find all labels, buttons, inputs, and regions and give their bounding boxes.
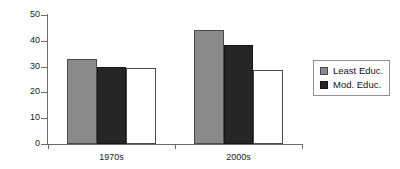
y-axis-tick-label: 10 xyxy=(0,113,40,122)
x-axis-tick xyxy=(302,144,303,149)
bar xyxy=(253,70,283,144)
legend-swatch-icon xyxy=(320,67,328,75)
x-axis-tick-label: 2000s xyxy=(175,152,302,162)
bar xyxy=(194,30,224,144)
y-axis-tick xyxy=(41,41,47,42)
y-axis-tick xyxy=(41,92,47,93)
x-axis-tick xyxy=(175,144,176,149)
x-axis-tick xyxy=(48,144,49,149)
chart-legend: Least Educ.Mod. Educ. xyxy=(313,60,390,96)
y-axis-tick xyxy=(41,118,47,119)
x-axis-tick-label: 1970s xyxy=(48,152,175,162)
legend-item-label: Least Educ. xyxy=(333,66,383,76)
legend-swatch-icon xyxy=(320,81,328,89)
bar xyxy=(224,45,254,144)
bar xyxy=(67,59,97,144)
y-axis-tick-label: 20 xyxy=(0,87,40,96)
y-axis-tick-label: 50 xyxy=(0,10,40,19)
y-axis-tick xyxy=(41,15,47,16)
y-axis-tick xyxy=(41,67,47,68)
legend-item[interactable]: Mod. Educ. xyxy=(320,80,383,90)
y-axis-tick xyxy=(41,144,47,145)
bars-layer xyxy=(48,15,302,144)
legend-item[interactable]: Least Educ. xyxy=(320,66,383,76)
bar xyxy=(97,67,127,144)
y-axis-tick-label: 0 xyxy=(0,139,40,148)
bar xyxy=(126,68,156,144)
y-axis-tick-label: 30 xyxy=(0,62,40,71)
y-axis-tick-label: 40 xyxy=(0,36,40,45)
bar-chart: 01020304050 1970s2000s Least Educ.Mod. E… xyxy=(0,0,400,169)
legend-item-label: Mod. Educ. xyxy=(333,80,381,90)
